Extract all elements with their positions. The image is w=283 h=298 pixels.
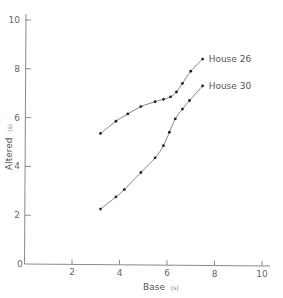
data-point (174, 117, 177, 120)
series-layer: House 26House 30 (99, 54, 251, 210)
x-tick-label: 10 (256, 269, 268, 279)
y-axis-label: Altered (4, 138, 14, 170)
data-point (126, 113, 129, 116)
data-point (201, 58, 204, 61)
series-line (101, 86, 203, 209)
y-tick-label: 4 (14, 161, 20, 171)
chart-canvas: 246810 246810 0 Base (s) Altered (s) Hou… (0, 0, 283, 298)
data-point (99, 208, 102, 211)
data-point (123, 188, 126, 191)
data-point (99, 132, 102, 135)
x-axis-label: Base (143, 282, 165, 292)
data-point (175, 91, 178, 94)
y-tick-label: 2 (14, 210, 20, 220)
data-point (201, 84, 204, 87)
data-point (139, 171, 142, 174)
data-point (115, 196, 118, 199)
y-axis (25, 14, 27, 264)
data-point (115, 120, 118, 123)
y-axis-unit: (s) (6, 124, 13, 132)
data-point (189, 70, 192, 73)
x-axis-unit: (s) (171, 284, 179, 291)
x-tick-label: 4 (117, 268, 123, 278)
data-point (162, 144, 165, 147)
svg-text:Base (s): Base (s) (143, 282, 179, 292)
x-axis (25, 264, 271, 266)
series-label: House 26 (209, 54, 252, 64)
data-point (169, 95, 172, 98)
x-tick-label: 6 (164, 268, 170, 278)
series-house-26: House 26 (99, 54, 251, 135)
y-tick-label: 6 (14, 113, 20, 123)
data-point (139, 105, 142, 108)
data-point (181, 108, 184, 111)
x-ticks: 246810 (69, 259, 268, 279)
data-point (154, 100, 157, 103)
y-tick-label: 8 (14, 64, 20, 74)
x-axis-title: Base (s) (143, 282, 179, 292)
y-ticks: 246810 (9, 15, 31, 220)
origin-label: 0 (17, 259, 23, 269)
data-point (188, 99, 191, 102)
series-label: House 30 (209, 81, 252, 91)
y-tick-label: 10 (9, 15, 21, 25)
data-point (168, 131, 171, 134)
series-house-30: House 30 (99, 81, 251, 211)
data-point (181, 82, 184, 85)
data-point (154, 156, 157, 159)
svg-text:Altered (s): Altered (s) (4, 124, 14, 170)
x-tick-label: 2 (69, 267, 75, 277)
y-axis-title: Altered (s) (4, 124, 14, 170)
data-point (162, 98, 165, 101)
x-tick-label: 8 (212, 269, 218, 279)
